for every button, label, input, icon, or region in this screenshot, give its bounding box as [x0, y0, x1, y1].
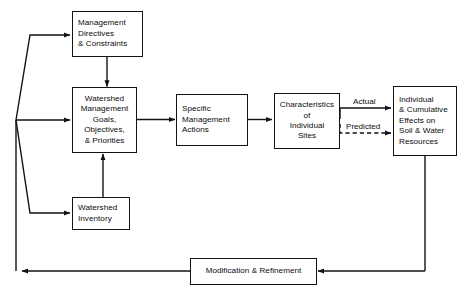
node-watershed-inventory: Watershed Inventory [72, 197, 130, 230]
node-line: Characteristics [280, 100, 334, 110]
node-line: Goals, [93, 115, 117, 125]
flowchart-diagram: Management Directives & Constraints Wate… [0, 0, 472, 301]
node-line: Soil & Water [399, 126, 456, 136]
node-line: Management [81, 104, 129, 114]
node-line: Actions [182, 125, 247, 135]
edge-label-predicted: Predicted [345, 122, 381, 131]
node-line: of [304, 111, 311, 121]
node-line: Inventory [78, 214, 129, 224]
node-modification-refinement: Modification & Refinement [190, 258, 317, 285]
edge-label-actual: Actual [352, 97, 377, 106]
node-line: & Cumulative [399, 105, 456, 115]
node-line: Resources [399, 137, 456, 147]
node-line: Watershed [78, 203, 129, 213]
node-specific-management-actions: Specific Management Actions [176, 94, 248, 146]
node-line: Sites [298, 131, 316, 141]
node-line: & Constraints [78, 39, 142, 49]
node-watershed-management-goals: Watershed Management Goals, Objectives, … [72, 87, 137, 153]
node-line: Watershed [85, 94, 124, 104]
node-line: Management [78, 18, 142, 28]
node-line: Effects on [399, 116, 456, 126]
node-line: Individual [290, 121, 325, 131]
edge-feedback-to-inventory [16, 120, 70, 213]
node-line: & Priorities [85, 136, 125, 146]
node-individual-cumulative-effects: Individual & Cumulative Effects on Soil … [393, 86, 457, 156]
node-management-directives: Management Directives & Constraints [72, 11, 143, 57]
node-line: Specific [182, 104, 247, 114]
node-line: Individual [399, 95, 456, 105]
edge-feedback-to-directives [16, 35, 70, 120]
node-line: Modification & Refinement [206, 266, 302, 276]
node-line: Management [182, 115, 247, 125]
node-line: Objectives, [84, 125, 125, 135]
node-characteristics-individual-sites: Characteristics of Individual Sites [274, 93, 340, 149]
edge-actual [340, 108, 391, 119]
node-line: Directives [78, 29, 142, 39]
